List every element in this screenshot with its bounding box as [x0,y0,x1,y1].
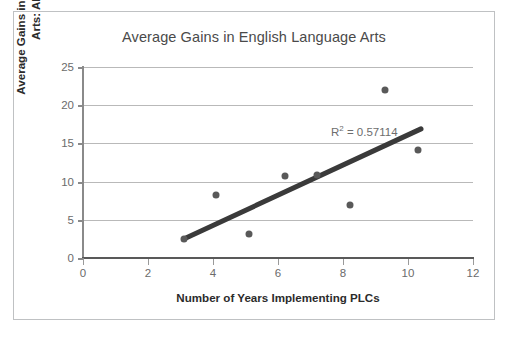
x-axis-tick-label: 2 [145,267,151,279]
x-axis-tick-mark [278,259,279,265]
x-axis-tick-mark [343,259,344,265]
data-point [245,230,252,237]
r-squared-suffix: = 0.57114 [344,126,398,138]
data-point [414,146,421,153]
x-axis-ticks-group: 024681012 [83,259,473,285]
x-axis-tick-mark [213,259,214,265]
chart-title: Average Gains in English Language Arts [14,29,494,45]
y-axis-tick-label: 0 [68,252,74,264]
data-point [213,191,220,198]
data-point [180,235,187,242]
x-axis-tick-mark [148,259,149,265]
data-point [314,171,321,178]
x-axis-title: Number of Years Implementing PLCs [83,291,473,304]
x-axis-tick-label: 10 [402,267,415,279]
y-axis-tick-label: 10 [61,176,74,188]
y-axis-title-line-1: Average Gains in English Language [13,0,28,101]
data-point [346,201,353,208]
x-axis-tick-label: 12 [467,267,480,279]
trend-line-segment [184,129,421,239]
r-squared-annotation: R2 = 0.57114 [331,124,398,138]
y-axis-tick-label: 20 [61,99,74,111]
x-axis-tick-label: 8 [340,267,346,279]
x-axis-tick-label: 0 [80,267,86,279]
x-axis-tick-mark [408,259,409,265]
y-axis-tick-label: 25 [61,61,74,73]
x-axis-tick-mark [83,259,84,265]
y-axis-tick-label: 5 [68,214,74,226]
plot-area: 0510152025 [83,67,473,258]
trend-line [83,67,473,258]
x-axis-tick-label: 4 [210,267,216,279]
chart-figure-frame: Average Gains in English Language Arts A… [13,11,495,320]
data-point [281,173,288,180]
y-axis-title-line-2: Arts: All Grades [28,0,43,101]
x-axis-tick-label: 6 [275,267,281,279]
data-point [382,86,389,93]
y-axis-title: Average Gains in English Language Arts: … [13,0,57,101]
y-axis-tick-label: 15 [61,137,74,149]
x-axis-tick-mark [473,259,474,265]
